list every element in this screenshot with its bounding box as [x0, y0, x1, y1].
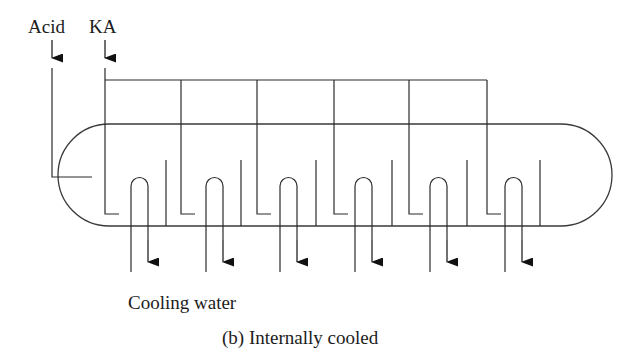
cooling-coil-2 — [206, 178, 223, 273]
cooling-coil-3 — [280, 178, 297, 273]
cooling-coil-6 — [505, 178, 522, 273]
downcomer-2 — [181, 80, 195, 214]
acid-inlet-pipe — [52, 68, 92, 177]
vessel-shell — [58, 124, 612, 226]
downcomer-5 — [409, 80, 423, 214]
cooling-coil-4 — [355, 178, 372, 273]
internally-cooled-reactor-figure: Acid KA Cooling water (b) Internally coo… — [0, 0, 642, 358]
downcomer-1 — [105, 80, 119, 214]
cooling-coil-5 — [430, 178, 447, 273]
downcomer-6 — [487, 80, 501, 214]
cooling-coil-1 — [131, 178, 148, 272]
ka-inlet-label: KA — [89, 17, 116, 36]
figure-caption: (b) Internally cooled — [222, 328, 378, 347]
downcomer-3 — [257, 80, 271, 214]
cooling-water-label: Cooling water — [128, 293, 236, 312]
process-diagram — [0, 0, 642, 358]
acid-inlet-label: Acid — [28, 17, 65, 36]
downcomer-4 — [334, 80, 348, 214]
